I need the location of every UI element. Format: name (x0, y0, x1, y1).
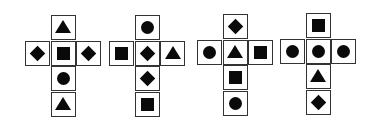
net-cell-below-2 (135, 92, 160, 117)
net-cell-top (135, 15, 160, 40)
triangle-icon (55, 97, 71, 110)
net-cell-below-2 (223, 91, 248, 116)
net-cell-below-1 (135, 66, 160, 91)
diamond-icon (30, 45, 46, 61)
net-cell-top (223, 14, 248, 39)
triangle-icon (55, 20, 71, 33)
diamond-icon (139, 71, 155, 87)
net-cell-right (331, 39, 356, 64)
net-cell-left (197, 40, 222, 65)
square-icon (115, 47, 128, 60)
square-icon (254, 46, 267, 59)
net-cell-right (76, 41, 101, 66)
circle-icon (141, 21, 154, 34)
square-icon (312, 19, 325, 32)
circle-icon (286, 45, 299, 58)
net-cell-left (280, 39, 305, 64)
net-cell-center (223, 40, 248, 65)
net-cell-left (109, 41, 134, 66)
circle-icon (203, 46, 216, 59)
net-cell-center (306, 39, 331, 64)
net-cell-below-1 (51, 66, 76, 91)
net-cell-below-1 (306, 64, 331, 89)
triangle-icon (310, 69, 326, 82)
net-cell-top (51, 15, 76, 40)
diamond-icon (81, 45, 97, 61)
net-cell-below-1 (223, 65, 248, 90)
circle-icon (57, 72, 70, 85)
square-icon (57, 47, 70, 60)
net-cell-right (248, 40, 273, 65)
triangle-icon (227, 45, 243, 58)
circle-icon (312, 45, 325, 58)
circle-icon (229, 97, 242, 110)
diamond-icon (310, 94, 326, 110)
net-cell-below-2 (51, 92, 76, 117)
triangle-icon (165, 46, 181, 59)
net-cell-right (160, 41, 185, 66)
diamond-icon (227, 19, 243, 35)
diamond-icon (139, 45, 155, 61)
net-cell-top (306, 13, 331, 38)
net-cell-below-2 (306, 90, 331, 115)
square-icon (229, 71, 242, 84)
net-cell-left (25, 41, 50, 66)
circle-icon (337, 45, 350, 58)
net-cell-center (51, 41, 76, 66)
net-cell-center (135, 41, 160, 66)
square-icon (141, 98, 154, 111)
